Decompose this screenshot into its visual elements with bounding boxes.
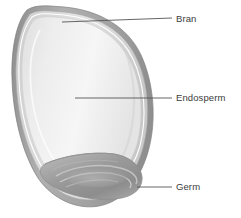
wheat-grain-diagram: Bran Endosperm Germ	[0, 0, 241, 218]
grain-illustration	[0, 0, 241, 218]
label-endosperm: Endosperm	[176, 92, 225, 103]
label-bran: Bran	[176, 13, 196, 24]
label-germ: Germ	[176, 181, 200, 192]
germ-core-ellipse	[66, 167, 126, 187]
